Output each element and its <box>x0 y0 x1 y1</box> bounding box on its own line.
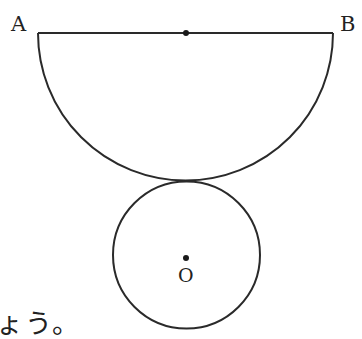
center-o-dot <box>183 255 189 261</box>
point-label-o: O <box>178 266 194 285</box>
circle-o <box>113 182 260 329</box>
ab-midpoint-dot <box>183 30 189 36</box>
point-label-b: B <box>340 14 355 35</box>
caption-text-fragment: ょう。 <box>0 310 81 337</box>
semicircle-arc <box>38 33 333 180</box>
point-label-a: A <box>11 14 26 35</box>
